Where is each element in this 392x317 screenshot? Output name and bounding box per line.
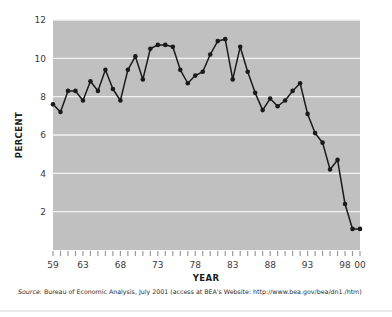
svg-text:63: 63: [77, 260, 88, 270]
source-prefix: Source:: [18, 288, 42, 295]
source-note: Source: Bureau of Economic Analysis, Jul…: [18, 288, 378, 296]
svg-text:00: 00: [354, 260, 366, 270]
svg-text:6: 6: [40, 130, 46, 140]
y-axis-tick-labels: 24681012: [35, 15, 47, 217]
line-chart-svg: 24681012 59636873788388939800 PERCENT YE…: [0, 0, 392, 317]
x-axis-tick-labels: 59636873788388939800: [47, 260, 366, 270]
svg-text:4: 4: [40, 169, 46, 179]
y-axis-label: PERCENT: [14, 112, 24, 158]
svg-text:12: 12: [35, 15, 46, 25]
x-axis-label: YEAR: [192, 273, 220, 283]
svg-text:59: 59: [47, 260, 59, 270]
svg-text:2: 2: [40, 207, 46, 217]
svg-text:83: 83: [227, 260, 238, 270]
chart-figure: 24681012 59636873788388939800 PERCENT YE…: [0, 0, 392, 317]
source-text: Bureau of Economic Analysis, July 2001 (…: [42, 288, 362, 295]
svg-text:68: 68: [115, 260, 127, 270]
svg-text:93: 93: [302, 260, 313, 270]
footer-divider: [0, 310, 392, 312]
svg-text:78: 78: [190, 260, 202, 270]
svg-text:73: 73: [152, 260, 163, 270]
svg-text:8: 8: [40, 92, 46, 102]
svg-text:98: 98: [339, 260, 351, 270]
svg-text:88: 88: [264, 260, 276, 270]
x-axis-tick-marks: [53, 251, 360, 256]
svg-text:10: 10: [35, 54, 47, 64]
